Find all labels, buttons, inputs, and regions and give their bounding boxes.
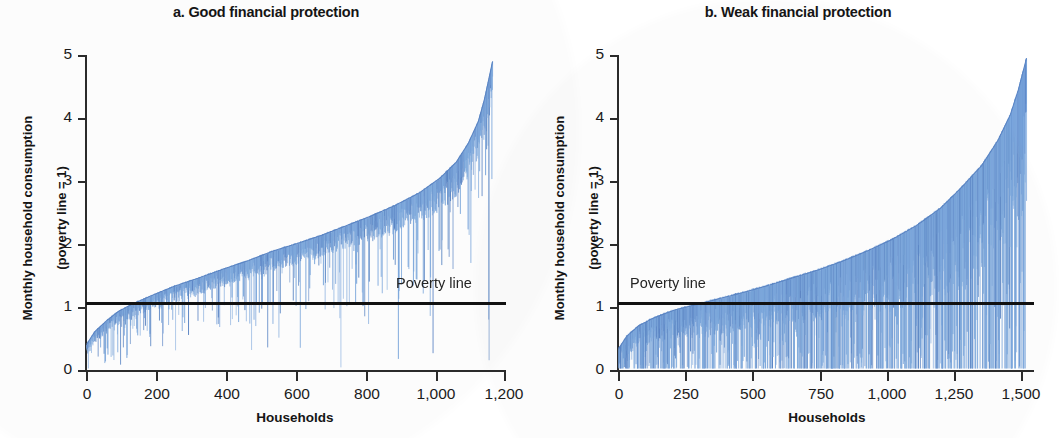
panel-b: b. Weak financial protection Monthly hou… (532, 0, 1064, 438)
panel-a-x-ticklabel-600: 600 (267, 385, 327, 403)
panel-a-x-tick-1200 (504, 372, 506, 381)
panel-a-x-tick-200 (156, 372, 158, 381)
panel-b-y-tick-5 (610, 55, 618, 57)
panel-b-x-ticklabel-1250: 1,250 (924, 385, 984, 403)
panel-a-title: a. Good financial protection (0, 4, 532, 20)
panel-a-y-tick-3 (78, 181, 86, 183)
panel-b-y-tick-3 (610, 181, 618, 183)
panel-b-y-ticklabel-3: 3 (582, 171, 604, 189)
panel-a-y-tick-5 (78, 55, 86, 57)
panel-b-y-tick-1 (610, 307, 618, 309)
panel-a-y-ticklabel-3: 3 (50, 171, 72, 189)
panel-a-y-tick-1 (78, 307, 86, 309)
panel-a-x-tick-400 (226, 372, 228, 381)
panel-a-y-tick-4 (78, 118, 86, 120)
panel-b-y-tick-2 (610, 244, 618, 246)
panel-a-x-tick-0 (86, 372, 88, 381)
panel-b-x-tick-500 (752, 372, 754, 381)
panel-a-x-ticklabel-1000: 1,000 (406, 385, 466, 403)
panel-a-x-axis-title: Households (150, 410, 440, 425)
panel-b-x-ticklabel-1500: 1,500 (991, 385, 1051, 403)
panel-b-x-ticklabel-500: 500 (723, 385, 783, 403)
panel-a: a. Good financial protection Monthly hou… (0, 0, 532, 438)
panel-a-x-tick-600 (296, 372, 298, 381)
panel-a-x-ticklabel-800: 800 (337, 385, 397, 403)
panel-b-x-tick-250 (685, 372, 687, 381)
panel-b-y-axis-title: Monthly household consumption (poverty l… (534, 58, 570, 378)
panel-a-y-ticklabel-5: 5 (50, 45, 72, 63)
panel-b-y-axis-title-line2: (poverty line = 1) (585, 58, 602, 378)
panel-b-plot-area (618, 55, 1034, 371)
panel-b-y-ticklabel-0: 0 (582, 360, 604, 378)
panel-a-x-ticklabel-400: 400 (197, 385, 257, 403)
panel-b-y-tick-0 (610, 370, 618, 372)
panel-a-y-ticklabel-0: 0 (50, 360, 72, 378)
panel-b-y-ticklabel-1: 1 (582, 297, 604, 315)
panel-b-x-ticklabel-1000: 1,000 (857, 385, 917, 403)
panel-b-x-tick-0 (618, 372, 620, 381)
panel-b-x-ticklabel-750: 750 (791, 385, 851, 403)
panel-a-x-ticklabel-200: 200 (127, 385, 187, 403)
panel-a-y-tick-0 (78, 370, 86, 372)
panel-b-y-ticklabel-4: 4 (582, 108, 604, 126)
panel-a-y-ticklabel-4: 4 (50, 108, 72, 126)
panel-a-poverty-line (86, 302, 506, 305)
figure-two-panel-chart: a. Good financial protection Monthly hou… (0, 0, 1064, 438)
panel-b-x-tick-750 (820, 372, 822, 381)
panel-b-y-tick-4 (610, 118, 618, 120)
panel-a-y-ticklabel-2: 2 (50, 234, 72, 252)
panel-a-x-tick-800 (366, 372, 368, 381)
panel-b-x-tick-1500 (1021, 372, 1023, 381)
panel-b-title: b. Weak financial protection (532, 4, 1064, 20)
panel-b-x-axis-title: Households (682, 410, 972, 425)
panel-b-x-tick-1000 (887, 372, 889, 381)
panel-a-y-axis-title-line2: (poverty line = 1) (53, 58, 70, 378)
panel-a-y-axis-title: Monthly household consumption (poverty l… (2, 58, 38, 378)
panel-a-y-ticklabel-1: 1 (50, 297, 72, 315)
panel-b-x-ticklabel-0: 0 (589, 385, 649, 403)
panel-b-poverty-line-label: Poverty line (630, 275, 706, 291)
panel-b-poverty-line (618, 302, 1034, 305)
panel-b-x-tick-1250 (954, 372, 956, 381)
panel-a-x-ticklabel-0: 0 (57, 385, 117, 403)
panel-a-y-tick-2 (78, 244, 86, 246)
panel-a-y-axis-title-line1: Monthly household consumption (19, 58, 36, 378)
panel-b-y-axis-title-line1: Monthly household consumption (551, 58, 568, 378)
panel-a-poverty-line-label: Poverty line (396, 275, 472, 291)
panel-a-plot-area (86, 55, 506, 371)
panel-b-y-ticklabel-2: 2 (582, 234, 604, 252)
panel-b-y-ticklabel-5: 5 (582, 45, 604, 63)
panel-a-x-tick-1000 (436, 372, 438, 381)
panel-a-x-ticklabel-1200: 1,200 (474, 385, 534, 403)
panel-b-x-ticklabel-250: 250 (656, 385, 716, 403)
